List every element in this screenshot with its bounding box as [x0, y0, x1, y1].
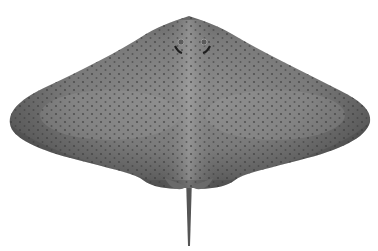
ray-illustration	[0, 0, 378, 251]
tail	[186, 178, 192, 246]
ray-graphic	[0, 0, 378, 251]
